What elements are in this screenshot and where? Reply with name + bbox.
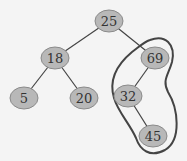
node-32: 32 (114, 85, 142, 107)
node-25: 25 (95, 10, 123, 32)
node-label: 32 (120, 89, 137, 104)
node-label: 18 (47, 51, 64, 66)
node-69: 69 (141, 47, 169, 69)
tree-diagram: 25 18 69 5 20 32 45 (0, 0, 187, 161)
node-label: 5 (20, 91, 28, 106)
node-label: 25 (101, 14, 118, 29)
node-label: 69 (147, 51, 164, 66)
node-45: 45 (139, 125, 167, 147)
node-20: 20 (70, 87, 98, 109)
node-5: 5 (10, 87, 38, 109)
node-label: 45 (145, 129, 162, 144)
edges (24, 21, 155, 136)
node-label: 20 (76, 91, 93, 106)
node-18: 18 (41, 47, 69, 69)
